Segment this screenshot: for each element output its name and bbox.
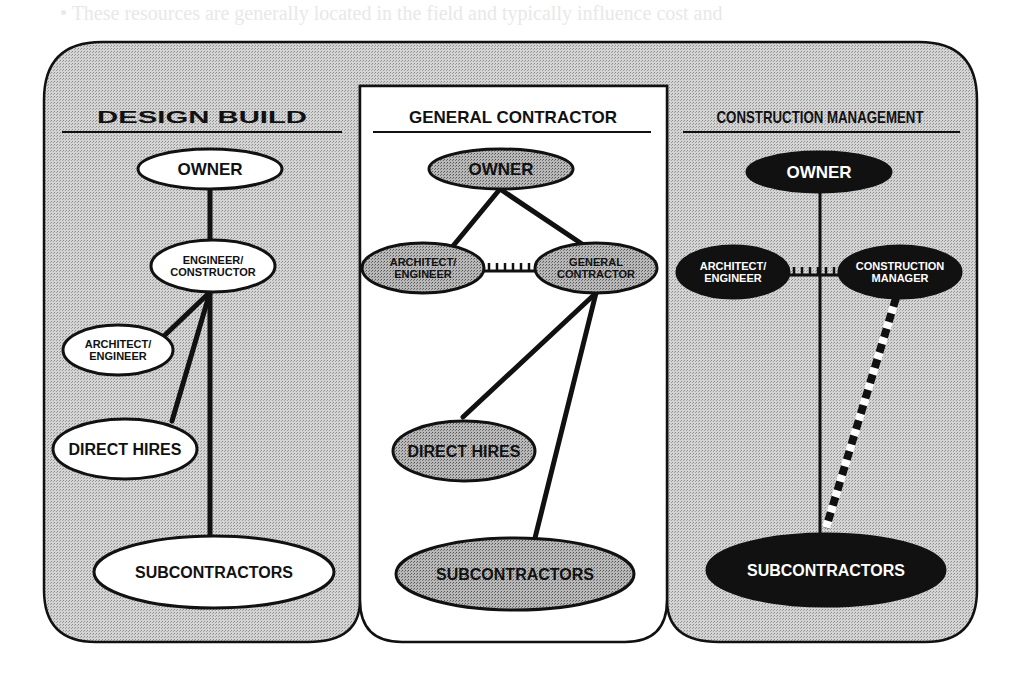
node-label: ARCHITECT/ [700, 260, 767, 272]
node-label: CONSTRUCTION [856, 260, 945, 272]
node-db-engineer-constructor: ENGINEER/CONSTRUCTOR [151, 240, 275, 292]
node-label: CONSTRUCTOR [170, 266, 255, 278]
node-gc-general-contractor: GENERALCONTRACTOR [535, 243, 657, 293]
node-label: OWNER [177, 160, 242, 179]
node-db-subcontractors: SUBCONTRACTORS [94, 536, 334, 608]
node-label: ARCHITECT/ [390, 256, 457, 268]
node-label: ENGINEER [89, 350, 147, 362]
node-gc-architect-engineer: ARCHITECT/ENGINEER [362, 243, 484, 293]
node-label: OWNER [786, 163, 851, 182]
node-cm-construction-manager: CONSTRUCTIONMANAGER [839, 246, 961, 298]
node-db-owner: OWNER [138, 149, 282, 189]
node-gc-direct-hires: DIRECT HIRES [393, 421, 535, 481]
node-label: SUBCONTRACTORS [747, 562, 905, 579]
node-label: ARCHITECT/ [85, 338, 152, 350]
node-label: ENGINEER/ [183, 254, 244, 266]
node-db-architect-engineer: ARCHITECT/ENGINEER [63, 325, 173, 375]
node-gc-subcontractors: SUBCONTRACTORS [396, 538, 634, 610]
node-label: CONTRACTOR [557, 268, 635, 280]
diagram-stage: • These resources are generally located … [0, 0, 1011, 688]
general-contractor-title: GENERAL CONTRACTOR [409, 108, 617, 127]
node-label: ENGINEER [704, 272, 762, 284]
node-label: OWNER [468, 160, 533, 179]
node-label: GENERAL [569, 256, 623, 268]
node-label: ENGINEER [394, 268, 452, 280]
bleed-through-text: • These resources are generally located … [60, 2, 722, 25]
node-label: SUBCONTRACTORS [135, 564, 293, 581]
design-build-title: DESIGN BUILD [97, 108, 307, 127]
construction-management-title: CONSTRUCTION MANAGEMENT [717, 108, 924, 127]
node-label: SUBCONTRACTORS [436, 566, 594, 583]
node-label: DIRECT HIRES [69, 441, 182, 458]
node-cm-owner: OWNER [747, 152, 891, 192]
delivery-methods-diagram: DESIGN BUILDGENERAL CONTRACTORCONSTRUCTI… [0, 0, 1011, 688]
node-cm-subcontractors: SUBCONTRACTORS [707, 534, 945, 606]
node-label: DIRECT HIRES [408, 443, 521, 460]
node-db-direct-hires: DIRECT HIRES [53, 419, 197, 479]
node-gc-owner: OWNER [429, 149, 573, 189]
node-cm-architect-engineer: ARCHITECT/ENGINEER [677, 246, 789, 298]
node-label: MANAGER [872, 272, 929, 284]
